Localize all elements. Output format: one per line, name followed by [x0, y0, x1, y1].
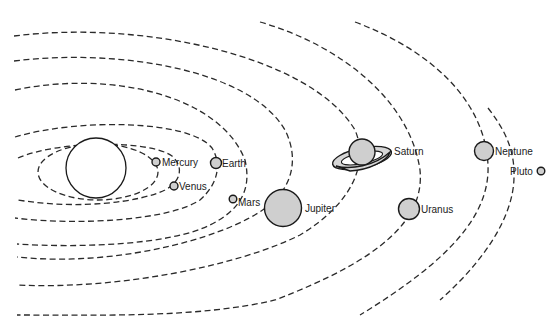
planet-earth: Earth	[211, 158, 246, 170]
planet-mars: Mars	[229, 195, 260, 208]
planet-pluto: Pluto	[510, 166, 545, 177]
label-saturn: Saturn	[394, 146, 423, 157]
orbit-neptune	[355, 22, 488, 315]
label-pluto: Pluto	[510, 166, 533, 177]
solar-system-diagram: Mercury Venus Earth Mars Jupiter Saturn …	[0, 0, 558, 331]
planet-mercury: Mercury	[152, 157, 198, 168]
label-uranus: Uranus	[421, 204, 453, 215]
planet-saturn: Saturn	[331, 139, 424, 174]
label-jupiter: Jupiter	[305, 203, 336, 214]
planet-jupiter: Jupiter	[265, 190, 336, 227]
planet-uranus: Uranus	[399, 199, 454, 220]
label-mars: Mars	[238, 197, 260, 208]
label-earth: Earth	[222, 158, 246, 169]
planet-venus: Venus	[170, 181, 207, 192]
label-neptune: Neptune	[495, 146, 533, 157]
planet-neptune: Neptune	[475, 142, 534, 161]
label-mercury: Mercury	[162, 157, 198, 168]
sun	[66, 138, 126, 198]
label-venus: Venus	[179, 181, 207, 192]
